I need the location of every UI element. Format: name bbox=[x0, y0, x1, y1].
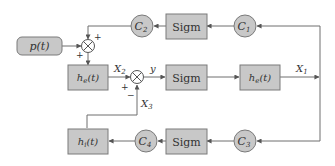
signal-label-x2: X2 bbox=[113, 63, 126, 76]
sign-sum1-top: + bbox=[94, 32, 102, 42]
summing-junction-2 bbox=[131, 71, 144, 84]
sigm-label-top: Sigm bbox=[172, 21, 201, 34]
sign-sum2-bottom: − bbox=[127, 90, 135, 100]
sign-sum1-left: + bbox=[76, 50, 84, 60]
signal-label-x3: X3 bbox=[140, 98, 153, 111]
signal-label-x1: X1 bbox=[295, 63, 308, 76]
sigm-label-mid: Sigm bbox=[172, 72, 201, 85]
signal-label-y: y bbox=[149, 63, 156, 74]
input-label-p: p(t) bbox=[29, 40, 49, 53]
block-diagram: Sigm Sigm Sigm p(t) he(t) he(t) hi(t) C2… bbox=[0, 0, 335, 166]
sigm-label-bottom: Sigm bbox=[172, 136, 201, 149]
